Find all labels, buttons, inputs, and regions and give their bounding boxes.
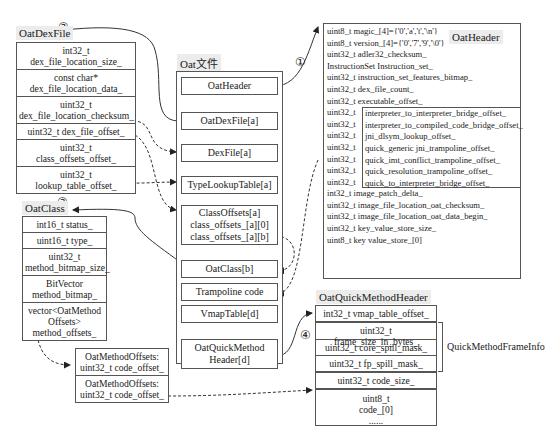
oatdexfile-box: int32_t dex_file_location_size_ const ch… bbox=[16, 42, 136, 194]
field: InstructionSet Instruction_set_ bbox=[324, 61, 520, 73]
field: uint32_t image_file_location_oat_checksu… bbox=[324, 200, 520, 212]
oatfile-oatquickmethodheader: OatQuickMethodHeader[d] bbox=[181, 339, 278, 369]
field: BitVectormethod_bitmap_ bbox=[23, 276, 106, 303]
oatquickmethodheader-title: OatQuickMethodHeader bbox=[316, 290, 431, 304]
marker-1: ① bbox=[295, 55, 306, 70]
oatfile-trampoline-code: Trampoline code bbox=[181, 283, 278, 301]
field: int32_t dex_file_location_size_ bbox=[17, 43, 135, 70]
field: uint32_t image_file_location_oat_data_be… bbox=[324, 211, 520, 223]
field: vector<OatMethodOffsets>method_offsets_ bbox=[23, 303, 106, 340]
oatfile-vmaptable: VmapTable[d] bbox=[181, 305, 278, 323]
oatfile-title: Oat文件 bbox=[177, 54, 221, 72]
oatfile-oatdexfile: OatDexFile[a] bbox=[181, 112, 278, 130]
field: const char*dex_file_location_data_ bbox=[17, 70, 135, 97]
marker-4: ④ bbox=[300, 328, 311, 343]
trampoline-offsets-group: interpreter_to_interpreter_bridge_offset… bbox=[362, 107, 521, 188]
field: uint32_t dex_file_offset_ bbox=[17, 124, 135, 140]
oatclass-box: int16_t status_ uint16_t type_ uint32_tm… bbox=[22, 216, 107, 341]
field: uint32_t instruction_set_features_bitmap… bbox=[324, 72, 520, 84]
field: uint32_tdex_file_location_checksum_ bbox=[17, 97, 135, 124]
oatfile-typelookuptable: TypeLookupTable[a] bbox=[181, 176, 278, 194]
frame-info-group: uint32_t frame_size_in_bytes_ uint32_t c… bbox=[315, 322, 437, 372]
field: uint8_t key value_store_[0] bbox=[324, 235, 520, 247]
oatfile-oatheader: OatHeader bbox=[181, 77, 278, 95]
oatdexfile-title: OatDexFile bbox=[16, 26, 73, 40]
oatheader-box: uint8_t magic_[4]={'0','a','t','\n'} uin… bbox=[323, 23, 521, 279]
field: uint32_t lookup_table_offset_ bbox=[17, 167, 135, 193]
field: uint16_t type_ bbox=[23, 233, 106, 249]
oatclass-title: OatClass bbox=[22, 201, 68, 215]
oatfile-classoffsets: ClassOffsets[a]class_offsets_[a][0]class… bbox=[181, 205, 278, 245]
oatfile-dexfile: DexFile[a] bbox=[181, 144, 278, 162]
field: OatMethodOffsets:uint32_t code_offset_ bbox=[76, 349, 168, 376]
oatheader-title: OatHeader bbox=[449, 30, 503, 44]
oatfile-oatclass: OatClass[b] bbox=[181, 260, 278, 278]
field: uint32_t executable_offset_ bbox=[324, 96, 520, 108]
frame-info-brace bbox=[438, 322, 443, 372]
field: uint32_t key_value_store_size_ bbox=[324, 223, 520, 235]
oatmethodoffsets-box: OatMethodOffsets:uint32_t code_offset_ O… bbox=[75, 348, 169, 403]
field: uint32_t class_offsets_offset_ bbox=[17, 140, 135, 167]
field: uint32_t adler32_checksum_ bbox=[324, 49, 520, 61]
field: int32_t image_patch_delta_ bbox=[324, 188, 520, 200]
field: uint32_tmethod_bitmap_size_ bbox=[23, 249, 106, 276]
field: int16_t status_ bbox=[23, 217, 106, 233]
field: int32_t vmap_table_offset_ bbox=[315, 305, 437, 322]
field: OatMethodOffsets:uint32_t code_offset_ bbox=[76, 376, 168, 402]
quick-method-frame-info-label: QuickMethodFrameInfo bbox=[447, 341, 545, 352]
field: uint32_t dex_file_count_ bbox=[324, 84, 520, 96]
code-field: uint8_t code_[0] ...... bbox=[315, 389, 437, 426]
field: uint32_t code_size_ bbox=[315, 372, 437, 389]
